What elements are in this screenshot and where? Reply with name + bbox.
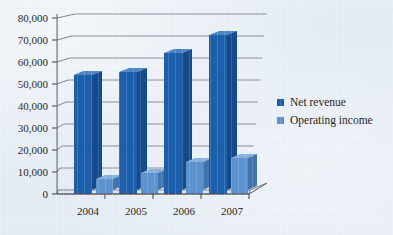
bar-group-2004 xyxy=(74,71,122,194)
ytick-label-0: 0 xyxy=(43,188,49,200)
depth-connector-50000 xyxy=(57,80,68,84)
chart-legend: Net revenue Operating income xyxy=(277,96,373,127)
bar-2005-operating-income xyxy=(141,173,158,194)
bar-2006-operating-income xyxy=(186,162,203,194)
depth-connector-20000 xyxy=(57,146,62,150)
bar-2006-net-revenue xyxy=(164,53,182,194)
xtick-label-2007: 2007 xyxy=(221,205,244,217)
bar-2007-operating-income xyxy=(231,158,248,194)
ytick-label-40000: 40,000 xyxy=(18,100,49,112)
depth-connector-70000 xyxy=(57,36,72,40)
depth-connector-80000 xyxy=(57,14,75,18)
legend-label-net-revenue: Net revenue xyxy=(290,96,346,108)
depth-connector-30000 xyxy=(57,124,64,128)
bar-2004-net-revenue-side xyxy=(92,71,102,190)
ytick-label-60000: 60,000 xyxy=(18,56,49,68)
xtick-label-2004: 2004 xyxy=(77,205,100,217)
bar-group-2005 xyxy=(119,68,167,194)
bar-2004-net-revenue xyxy=(74,75,92,194)
bar-chart-svg: 80,000 70,000 60,000 50,000 40,000 30,00… xyxy=(0,0,393,235)
bar-2007-operating-income-side xyxy=(248,154,257,190)
axis-depth-connectors xyxy=(57,14,75,194)
legend-swatch-operating-income xyxy=(277,117,284,124)
y-axis: 80,000 70,000 60,000 50,000 40,000 30,00… xyxy=(18,12,57,200)
bar-group-2006 xyxy=(164,49,212,194)
ytick-label-30000: 30,000 xyxy=(18,122,49,134)
xtick-label-2006: 2006 xyxy=(173,205,196,217)
depth-connector-60000 xyxy=(57,58,70,62)
legend-swatch-net-revenue xyxy=(277,99,284,106)
chart-figure: 80,000 70,000 60,000 50,000 40,000 30,00… xyxy=(0,0,393,235)
ytick-label-20000: 20,000 xyxy=(18,144,49,156)
ytick-label-10000: 10,000 xyxy=(18,166,49,178)
ytick-label-50000: 50,000 xyxy=(18,78,49,90)
bar-2005-net-revenue xyxy=(119,72,137,194)
bar-group-2007 xyxy=(209,31,257,194)
bar-2007-net-revenue xyxy=(209,35,227,194)
bar-2004-operating-income xyxy=(96,179,113,194)
legend-label-operating-income: Operating income xyxy=(290,114,373,127)
depth-connector-40000 xyxy=(57,102,66,106)
xtick-label-2005: 2005 xyxy=(125,205,148,217)
ytick-label-70000: 70,000 xyxy=(18,34,49,46)
ytick-label-80000: 80,000 xyxy=(18,12,49,24)
x-axis: 2004 2005 2006 2007 xyxy=(57,194,249,217)
